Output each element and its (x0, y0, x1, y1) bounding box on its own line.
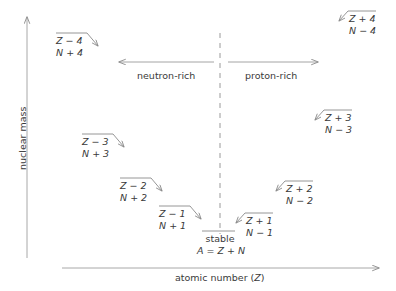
nuclide-zm1-top: Z − 1 (159, 208, 186, 220)
nuclide-label-zp2: Z + 2 N − 2 (286, 183, 313, 206)
neutron-rich-label: neutron-rich (137, 70, 195, 81)
nuclide-zm2-bottom: N + 2 (120, 192, 147, 204)
proton-rich-label: proton-rich (245, 70, 297, 81)
nuclide-label-zp4: Z + 4 N − 4 (349, 13, 376, 36)
nuclide-label-zm1: Z − 1 N + 1 (159, 208, 186, 231)
nuclide-label-zm3: Z − 3 N + 3 (82, 136, 109, 159)
nuclide-zm4-top: Z − 4 (56, 35, 83, 47)
nuclide-label-zp3: Z + 3 N − 3 (325, 112, 352, 135)
nuclide-zm3-bottom: N + 3 (82, 148, 109, 160)
nuclide-zp1-bottom: N − 1 (246, 227, 273, 239)
nuclide-zp4-top: Z + 4 (349, 13, 376, 25)
nuclide-zp3-bottom: N − 3 (325, 124, 352, 136)
nuclide-zp3-top: Z + 3 (325, 112, 352, 124)
x-axis-label: atomic number (Z) (175, 272, 265, 283)
nuclide-zm3-top: Z − 3 (82, 136, 109, 148)
nuclide-zm2-top: Z − 2 (120, 180, 147, 192)
nuclide-zp1-top: Z + 1 (246, 215, 273, 227)
nuclide-zm1-bottom: N + 1 (159, 220, 186, 232)
nuclide-label-zm4: Z − 4 N + 4 (56, 35, 83, 58)
stable-word-label: stable (201, 233, 239, 245)
stable-formula-label: A = Z + N (190, 245, 252, 257)
nuclide-zp4-bottom: N − 4 (349, 25, 376, 37)
nuclear-stability-diagram: nuclear mass atomic number (Z) neutron-r… (0, 0, 396, 291)
nuclide-label-zp1: Z + 1 N − 1 (246, 215, 273, 238)
nuclide-zp2-bottom: N − 2 (286, 195, 313, 207)
nuclide-zm4-bottom: N + 4 (56, 47, 83, 59)
nuclide-label-zm2: Z − 2 N + 2 (120, 180, 147, 203)
nuclide-zp2-top: Z + 2 (286, 183, 313, 195)
y-axis-label: nuclear mass (17, 107, 28, 170)
